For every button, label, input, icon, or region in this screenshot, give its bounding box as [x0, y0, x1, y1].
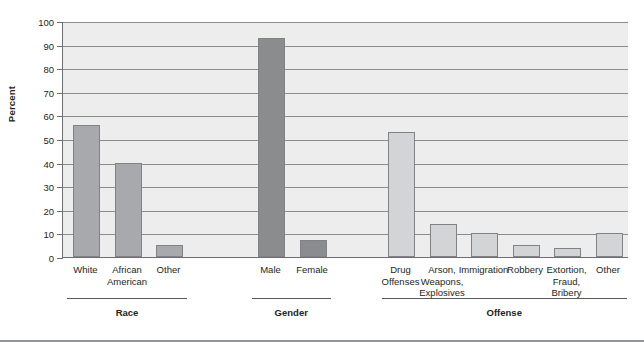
bar	[596, 233, 623, 257]
y-axis-tick	[57, 234, 63, 235]
gridline	[63, 164, 628, 165]
gridline	[63, 93, 628, 94]
x-axis-label: Other	[572, 264, 644, 276]
y-axis-tick	[57, 187, 63, 188]
plot-area: 0102030405060708090100	[62, 22, 628, 258]
gridline	[63, 211, 628, 212]
y-axis-title: Percent	[6, 64, 17, 144]
x-axis-label: Female	[276, 264, 348, 276]
group-rule	[382, 298, 627, 299]
y-axis-tick	[57, 22, 63, 23]
y-axis-tick	[57, 211, 63, 212]
gridline	[63, 140, 628, 141]
bar	[554, 248, 581, 257]
group-label: Gender	[231, 307, 351, 318]
bar	[156, 245, 183, 257]
group-rule	[67, 298, 187, 299]
group-label: Offense	[444, 307, 564, 318]
y-axis-tick	[57, 140, 63, 141]
y-axis-tick-label: 20	[24, 211, 54, 212]
y-axis-tick-label: 40	[24, 164, 54, 165]
y-axis-tick	[57, 258, 63, 259]
bar	[300, 240, 327, 257]
bar	[115, 163, 142, 257]
y-axis-tick-label: 60	[24, 116, 54, 117]
gridline	[63, 22, 628, 23]
y-axis-tick-label: 30	[24, 187, 54, 188]
y-axis-tick	[57, 93, 63, 94]
gridline	[63, 46, 628, 47]
gridline	[63, 116, 628, 117]
group-rule	[252, 298, 331, 299]
gridline	[63, 69, 628, 70]
y-axis-tick-label: 100	[24, 22, 54, 23]
x-axis-label: Other	[133, 264, 205, 276]
bar	[513, 245, 540, 257]
y-axis-tick	[57, 46, 63, 47]
group-label: Race	[67, 307, 187, 318]
y-axis-tick	[57, 164, 63, 165]
gridline	[63, 187, 628, 188]
y-axis-tick-label: 70	[24, 93, 54, 94]
gridline	[63, 234, 628, 235]
y-axis-tick-label: 10	[24, 234, 54, 235]
y-axis-tick	[57, 69, 63, 70]
bar	[388, 132, 415, 257]
y-axis-tick-label: 0	[24, 258, 54, 259]
bar	[73, 125, 100, 257]
bar	[471, 233, 498, 257]
chart-figure: Percent 0102030405060708090100 WhiteAfri…	[0, 0, 644, 342]
y-axis-tick-label: 50	[24, 140, 54, 141]
y-axis-tick	[57, 116, 63, 117]
y-axis-tick-label: 80	[24, 69, 54, 70]
bar	[258, 38, 285, 257]
bar	[430, 224, 457, 257]
y-axis-tick-label: 90	[24, 46, 54, 47]
